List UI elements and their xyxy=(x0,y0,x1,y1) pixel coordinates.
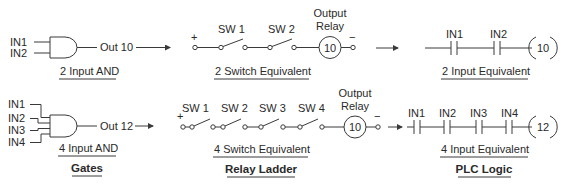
section-title-relay-ladder: Relay Ladder xyxy=(225,163,298,175)
relay-caption: 4 Switch Equivalent xyxy=(214,143,310,155)
gate-input-label: IN2 xyxy=(10,47,27,59)
gate-input-label: IN3 xyxy=(8,124,25,136)
section-title-plc-logic: PLC Logic xyxy=(456,163,513,175)
contact-label: IN1 xyxy=(408,107,425,119)
open-switch-icon xyxy=(263,119,279,126)
relay-title: Output xyxy=(338,87,371,99)
plc-caption: 2 Input Equivalent xyxy=(442,65,530,77)
logic-diagram: IN1 IN2 Out 10 2 Input AND + SW 1 SW 2 1… xyxy=(0,0,570,190)
switch-label: SW 3 xyxy=(259,102,286,114)
coil-number: 12 xyxy=(537,121,549,133)
switch-label: SW 4 xyxy=(298,102,325,114)
switch-label: SW 1 xyxy=(218,23,245,35)
gate-input-label: IN2 xyxy=(8,112,25,124)
gate-output-label: Out 12 xyxy=(100,120,133,132)
relay-title: Output xyxy=(313,7,346,19)
relay-number: 10 xyxy=(349,121,361,133)
coil-number: 10 xyxy=(537,42,549,54)
contact-label: IN2 xyxy=(439,107,456,119)
switch-label: SW 2 xyxy=(268,23,295,35)
gate-output-label: Out 10 xyxy=(100,41,133,53)
open-switch-icon xyxy=(302,119,318,126)
switch-label: SW 2 xyxy=(221,102,248,114)
minus-terminal-label: − xyxy=(374,110,380,122)
and-gate-2-input: IN1 IN2 Out 10 2 Input AND xyxy=(10,36,170,79)
relay-ladder-2-switch: + SW 1 SW 2 10 Output Relay − 2 Switch E… xyxy=(191,7,355,79)
plc-ladder-2-input: IN1 IN2 10 2 Input Equivalent xyxy=(425,28,557,79)
open-switch-icon xyxy=(272,39,292,47)
gate-input-label: IN4 xyxy=(8,136,25,148)
and-gate-symbol xyxy=(50,115,77,137)
open-switch-icon xyxy=(225,119,241,126)
relay-title: Relay xyxy=(316,20,345,32)
minus-terminal-label: − xyxy=(349,31,355,43)
plc-ladder-4-input: IN1 IN2 IN3 IN4 12 4 Input Equivalent PL… xyxy=(407,107,557,177)
relay-title: Relay xyxy=(341,100,370,112)
contact-label: IN2 xyxy=(490,28,507,40)
gate-input-label: IN1 xyxy=(8,98,25,110)
plc-caption: 4 Input Equivalent xyxy=(441,143,529,155)
open-switch-icon xyxy=(194,119,210,126)
contact-label: IN3 xyxy=(470,107,487,119)
section-title-gates: Gates xyxy=(71,162,103,174)
and-gate-symbol xyxy=(50,37,77,58)
contact-label: IN1 xyxy=(446,28,463,40)
relay-caption: 2 Switch Equivalent xyxy=(215,65,311,77)
plus-terminal-label: + xyxy=(191,31,197,43)
and-gate-4-input: IN1 IN2 IN3 IN4 Out 12 4 Input AND Gates xyxy=(8,98,153,176)
gate-caption: 2 Input AND xyxy=(60,65,119,77)
relay-number: 10 xyxy=(324,42,336,54)
contact-label: IN4 xyxy=(501,107,518,119)
relay-ladder-4-switch: + SW 1 SW 2 SW 3 SW 4 10 Output Relay − … xyxy=(177,87,380,177)
switch-label: SW 1 xyxy=(182,102,209,114)
gate-caption: 4 Input AND xyxy=(59,142,118,154)
open-switch-icon xyxy=(223,39,243,47)
